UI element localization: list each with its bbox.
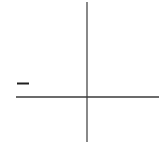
- coordinate-axes-diagram: [0, 0, 164, 144]
